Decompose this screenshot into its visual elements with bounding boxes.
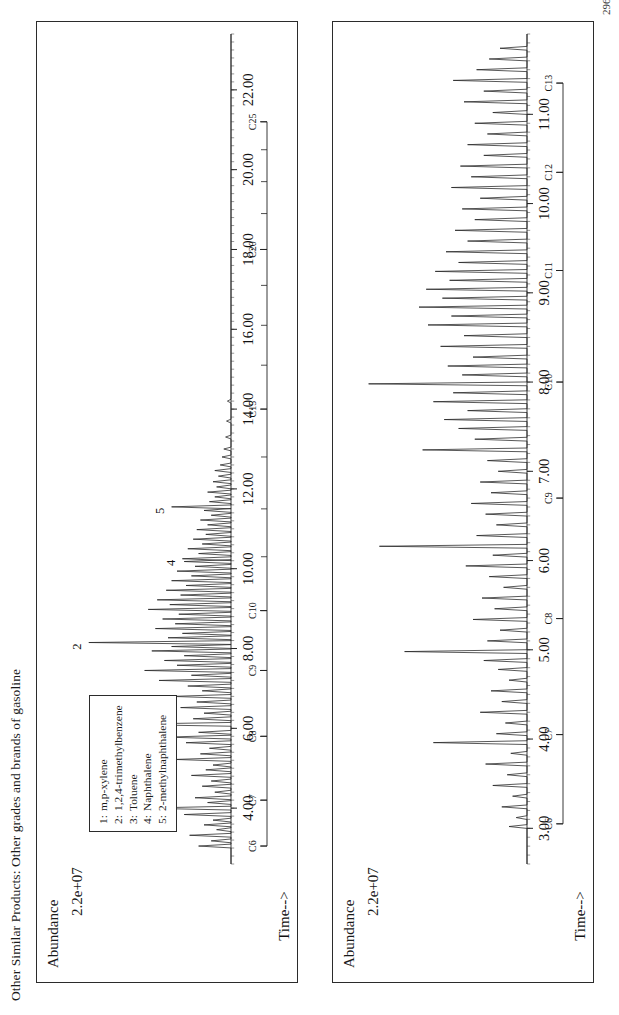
carbon-number-label: C20 xyxy=(247,241,258,258)
legend-item-label: Toluene xyxy=(127,774,139,811)
peak-label: 5 xyxy=(153,508,167,514)
legend-item: 4:Naphthalene xyxy=(140,705,155,824)
legend-item-number: 5: xyxy=(155,811,170,824)
carbon-number-label: C12 xyxy=(543,164,554,181)
page-canvas: Other Similar Products: Other grades and… xyxy=(0,0,619,1015)
x-axis-title: Time--> xyxy=(572,891,588,941)
carbon-number-label: C9 xyxy=(543,492,554,504)
x-axis-tick-label: 12.00 xyxy=(240,473,256,506)
chart-panel-bottom: Abundance 2.2e+07 3.004.005.006.007.008.… xyxy=(332,21,594,983)
x-axis-tick-label: 10.00 xyxy=(536,187,552,220)
chromatogram-plot-top: 4.006.008.0010.0012.0014.0016.0018.0020.… xyxy=(37,22,297,982)
carbon-number-label: C13 xyxy=(543,75,554,92)
x-axis-tick-label: 7.00 xyxy=(536,459,552,484)
page-number: 296 xyxy=(600,0,612,15)
chromatogram-svg-bottom: 3.004.005.006.007.008.009.0010.0011.00C6… xyxy=(333,20,593,982)
legend-item: 1:m,p-xylene xyxy=(96,705,111,824)
carbon-number-label: C11 xyxy=(543,262,554,278)
carbon-number-label: C10 xyxy=(543,374,554,391)
carbon-number-label: C9 xyxy=(247,665,258,677)
carbon-number-label: C8 xyxy=(247,730,258,742)
legend-item-number: 2: xyxy=(111,811,126,824)
x-axis-tick-label: 6.00 xyxy=(536,548,552,573)
carbon-number-label: C25 xyxy=(247,113,258,130)
page-header: Other Similar Products: Other grades and… xyxy=(8,669,24,1001)
legend-item-label: 1,2,4-trimethylbenzene xyxy=(112,705,124,811)
chromatogram-svg-top: 4.006.008.0010.0012.0014.0016.0018.0020.… xyxy=(37,20,297,982)
legend-item-number: 4: xyxy=(140,811,155,824)
carbon-number-label: C6 xyxy=(247,840,258,852)
carbon-number-label: C15 xyxy=(247,401,258,418)
chromatogram-trace xyxy=(369,34,527,864)
carbon-number-label: C7 xyxy=(543,729,554,741)
x-axis-tick-label: 11.00 xyxy=(536,98,552,130)
x-axis-tick-label: 10.00 xyxy=(240,552,256,585)
legend-item: 2:1,2,4-trimethylbenzene xyxy=(111,705,126,824)
chart-panel-top: Abundance 2.2e+07 4.006.008.0010.0012.00… xyxy=(36,21,298,983)
x-axis-tick-label: 20.00 xyxy=(240,153,256,186)
legend-item-number: 1: xyxy=(96,811,111,824)
carbon-number-label: C6 xyxy=(543,818,554,830)
legend-item-label: m,p-xylene xyxy=(97,759,109,811)
peak-label: 2 xyxy=(70,643,84,649)
legend-item: 3:Toluene xyxy=(126,705,141,824)
x-axis-tick-label: 22.00 xyxy=(240,74,256,107)
carbon-number-label: C7 xyxy=(247,794,258,806)
x-axis-tick-label: 8.00 xyxy=(240,636,256,661)
legend-item-number: 3: xyxy=(126,811,141,824)
carbon-number-label: C8 xyxy=(543,613,554,625)
x-axis-title: Time--> xyxy=(276,891,292,941)
x-axis-tick-label: 5.00 xyxy=(536,637,552,662)
legend-item: 5:2-methylnaphthalene xyxy=(155,705,170,824)
peak-label: 4 xyxy=(164,559,178,566)
compound-legend: 1:m,p-xylene2:1,2,4-trimethylbenzene3:To… xyxy=(89,695,177,832)
x-axis-tick-label: 16.00 xyxy=(240,313,256,346)
legend-item-label: Naphthalene xyxy=(141,753,153,811)
chromatogram-plot-bottom: 3.004.005.006.007.008.009.0010.0011.00C6… xyxy=(333,22,593,982)
legend-item-label: 2-methylnaphthalene xyxy=(156,715,168,811)
x-axis-tick-label: 9.00 xyxy=(536,280,552,305)
carbon-number-label: C10 xyxy=(247,602,258,619)
